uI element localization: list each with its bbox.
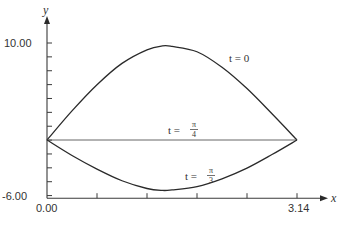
- y-axis-label: y: [42, 3, 49, 17]
- x-axis-label: x: [330, 191, 337, 205]
- curves: [47, 46, 297, 191]
- ticks: [47, 43, 297, 198]
- y-axis-arrow: [44, 16, 50, 24]
- fraction-denominator: 3: [209, 176, 213, 185]
- x-tick-label-min: 0.00: [36, 202, 57, 214]
- curve-label-prefix: t =: [185, 170, 197, 182]
- curve-label-t0: t = 0: [229, 52, 250, 64]
- y-tick-label-min: -6.00: [2, 190, 27, 202]
- curve-labels: t = 0 t = π 4 t = π 3: [168, 52, 250, 185]
- curve-label-t-pi-3: t = π 3: [185, 166, 215, 185]
- fraction-denominator: 4: [192, 130, 196, 139]
- fraction-numerator: π: [209, 166, 213, 175]
- x-tick-label-max: 3.14: [288, 202, 309, 214]
- y-tick-label-max: 10.00: [4, 37, 32, 49]
- x-axis-arrow: [320, 195, 328, 201]
- axes: y x 10.00 -6.00 0.00 3.14: [2, 3, 337, 214]
- fraction-numerator: π: [192, 120, 196, 129]
- curve-label-t-pi-4: t = π 4: [168, 120, 198, 139]
- curve-label-prefix: t =: [168, 124, 180, 136]
- chart-canvas: y x 10.00 -6.00 0.00 3.14 t = 0 t = π 4 …: [0, 0, 344, 226]
- series-line-t-pi-3: [47, 140, 297, 191]
